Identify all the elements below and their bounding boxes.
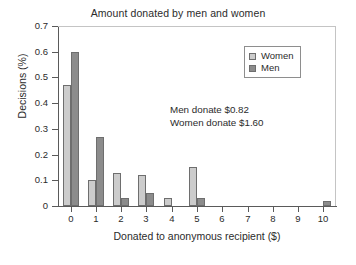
x-tick-mark: [172, 207, 173, 212]
annotation-block: Men donate $0.82 Women donate $1.60: [170, 103, 264, 129]
legend-item-men: Men: [249, 62, 294, 74]
x-tick-label: 8: [261, 214, 285, 224]
x-tick-label: 3: [134, 214, 158, 224]
bar-women-4: [164, 198, 172, 206]
x-tick-label: 9: [286, 214, 310, 224]
legend-swatch-men: [249, 65, 256, 72]
bar-women-2: [113, 173, 121, 206]
legend-label-women: Women: [261, 51, 294, 61]
y-tick-label: 0.3: [8, 124, 48, 134]
bar-men-2: [121, 198, 129, 206]
x-tick-mark: [298, 207, 299, 212]
bar-men-0: [71, 52, 79, 206]
x-tick-mark: [323, 207, 324, 212]
x-tick-mark: [273, 207, 274, 212]
chart-title: Amount donated by men and women: [0, 7, 356, 19]
x-tick-label: 0: [59, 214, 83, 224]
y-tick-mark: [52, 26, 58, 27]
y-tick-label: 0.4: [8, 98, 48, 108]
x-tick-label: 10: [311, 214, 335, 224]
legend: Women Men: [244, 46, 301, 78]
bar-men-10: [323, 201, 331, 206]
x-tick-label: 4: [160, 214, 184, 224]
chart-figure: Amount donated by men and women 00.10.20…: [0, 0, 356, 265]
y-tick-label: 0.7: [8, 21, 48, 31]
x-tick-label: 7: [236, 214, 260, 224]
bar-men-3: [146, 193, 154, 206]
legend-item-women: Women: [249, 50, 294, 62]
y-tick-label: 0.5: [8, 72, 48, 82]
y-tick-mark: [52, 129, 58, 130]
x-tick-mark: [222, 207, 223, 212]
y-tick-mark: [52, 155, 58, 156]
annotation-men: Men donate $0.82: [170, 103, 264, 116]
y-tick-label: 0.6: [8, 47, 48, 57]
bar-women-0: [63, 85, 71, 206]
y-tick-mark: [52, 52, 58, 53]
bar-men-1: [96, 137, 104, 206]
x-tick-mark: [121, 207, 122, 212]
y-tick-label: 0.1: [8, 175, 48, 185]
y-tick-label: 0: [8, 201, 48, 211]
y-tick-mark: [52, 103, 58, 104]
bar-men-5: [197, 198, 205, 206]
x-tick-mark: [96, 207, 97, 212]
x-axis-label: Donated to anonymous recipient ($): [58, 230, 336, 242]
annotation-women: Women donate $1.60: [170, 116, 264, 129]
y-tick-label: 0.2: [8, 150, 48, 160]
x-tick-mark: [71, 207, 72, 212]
y-tick-mark: [52, 77, 58, 78]
x-tick-mark: [146, 207, 147, 212]
legend-label-men: Men: [261, 63, 279, 73]
x-tick-label: 2: [109, 214, 133, 224]
legend-swatch-women: [249, 53, 256, 60]
x-tick-mark: [248, 207, 249, 212]
x-tick-label: 5: [185, 214, 209, 224]
bar-women-1: [88, 180, 96, 206]
y-axis-label: Decisions (%): [16, 26, 28, 146]
y-tick-mark: [52, 206, 58, 207]
x-tick-label: 1: [84, 214, 108, 224]
y-tick-mark: [52, 180, 58, 181]
x-tick-label: 6: [210, 214, 234, 224]
bar-women-3: [138, 175, 146, 206]
bar-women-5: [189, 167, 197, 206]
x-tick-mark: [197, 207, 198, 212]
